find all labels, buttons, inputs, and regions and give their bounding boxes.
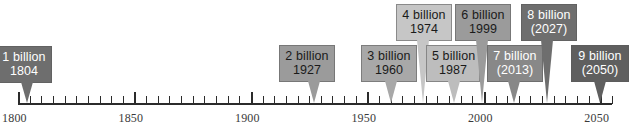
axis-baseline [18, 103, 612, 105]
milestone-3-billion-pointer [385, 81, 397, 103]
milestone-2-billion-box: 2 billion1927 [279, 45, 335, 82]
milestone-5-billion-count: 5 billion [432, 49, 474, 63]
milestone-7-billion-box: 7 billion(2013) [487, 45, 543, 82]
axis-tick-minor [589, 96, 590, 104]
axis-tick-minor [472, 96, 473, 104]
axis-tick-major [251, 92, 253, 105]
milestone-2-billion-year: 1927 [285, 63, 329, 77]
milestone-3-billion-year: 1960 [367, 63, 411, 77]
milestone-3-billion-count: 3 billion [367, 49, 411, 63]
axis-tick-minor [41, 96, 42, 104]
axis-tick-minor [530, 96, 531, 104]
population-timeline-figure: 180018501900195020002050 1 billion18042 … [0, 0, 634, 130]
axis-tick-minor [216, 96, 217, 104]
milestone-4-billion-box: 4 billion1974 [396, 4, 452, 41]
axis-tick-major [367, 92, 369, 105]
milestone-6-billion-count: 6 billion [461, 8, 505, 22]
axis-tick-minor [274, 96, 275, 104]
axis-tick-minor [100, 96, 101, 104]
milestone-9-billion-count: 9 billion [577, 49, 623, 63]
axis-year-label: 1850 [118, 111, 143, 126]
milestone-1-billion-year: 1804 [2, 64, 46, 78]
axis-year-label: 2000 [468, 111, 493, 126]
milestone-5-billion-box: 5 billion1987 [426, 45, 480, 82]
axis-tick-minor [88, 96, 89, 104]
milestone-7-billion-year: (2013) [493, 63, 537, 77]
milestone-8-billion-box: 8 billion(2027) [521, 4, 577, 41]
axis-tick-minor [263, 96, 264, 104]
axis-tick-minor [53, 96, 54, 104]
axis-year-label: 1800 [2, 111, 27, 126]
axis-tick-minor [402, 96, 403, 104]
milestone-6-billion-box: 6 billion1999 [455, 4, 511, 41]
axis-tick-minor [76, 96, 77, 104]
milestone-1-billion-box: 1 billion1804 [0, 46, 52, 83]
milestone-8-billion-year: (2027) [527, 22, 571, 36]
milestone-5-billion-pointer [448, 81, 460, 103]
axis-tick-minor [169, 96, 170, 104]
axis-tick-minor [146, 96, 147, 104]
axis-tick-minor [356, 96, 357, 104]
milestone-2-billion-count: 2 billion [285, 49, 329, 63]
milestone-9-billion-box: 9 billion(2050) [571, 45, 629, 82]
milestone-3-billion-box: 3 billion1960 [361, 45, 417, 82]
axis-tick-minor [298, 96, 299, 104]
axis-year-label: 1900 [235, 111, 260, 126]
milestone-4-billion-count: 4 billion [402, 8, 446, 22]
milestone-8-billion-count: 8 billion [527, 8, 571, 22]
axis-tick-minor [111, 96, 112, 104]
milestone-5-billion-year: 1987 [432, 63, 474, 77]
axis-year-label: 1950 [351, 111, 376, 126]
axis-tick-minor [332, 96, 333, 104]
milestone-1-billion-count: 1 billion [2, 50, 46, 64]
axis-tick-minor [239, 96, 240, 104]
milestone-9-billion-year: (2050) [577, 63, 623, 77]
axis-tick-major [134, 92, 136, 105]
milestone-8-billion-pointer [541, 40, 553, 103]
axis-tick-minor [193, 96, 194, 104]
axis-tick-minor [228, 96, 229, 104]
milestone-1-billion-pointer [21, 82, 33, 103]
axis-tick-minor [65, 96, 66, 104]
axis-tick-minor [437, 96, 438, 104]
axis-tick-minor [554, 96, 555, 104]
axis-tick-minor [344, 96, 345, 104]
axis-tick-minor [123, 96, 124, 104]
axis-tick-minor [414, 96, 415, 104]
axis-tick-minor [321, 96, 322, 104]
axis-tick-major [18, 92, 20, 105]
axis-year-label: 2050 [584, 111, 609, 126]
milestone-7-billion-pointer [508, 81, 520, 103]
axis-tick-minor [286, 96, 287, 104]
milestone-6-billion-pointer [476, 40, 488, 103]
axis-tick-minor [612, 96, 613, 104]
milestone-7-billion-count: 7 billion [493, 49, 537, 63]
axis-tick-minor [565, 96, 566, 104]
axis-tick-minor [379, 96, 380, 104]
axis-tick-minor [496, 96, 497, 104]
milestone-2-billion-pointer [308, 81, 320, 103]
milestone-9-billion-pointer [594, 81, 606, 103]
axis-tick-minor [204, 96, 205, 104]
axis-tick-minor [158, 96, 159, 104]
milestone-6-billion-year: 1999 [461, 22, 505, 36]
axis-tick-minor [461, 96, 462, 104]
milestone-4-billion-year: 1974 [402, 22, 446, 36]
axis-tick-minor [577, 96, 578, 104]
axis-tick-minor [181, 96, 182, 104]
